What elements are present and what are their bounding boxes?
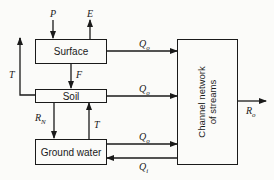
label-Qi: Qi [139, 162, 148, 176]
soil-box: Soil [35, 89, 107, 103]
groundwater-label: Ground water [41, 147, 102, 158]
surface-box: Surface [35, 39, 107, 64]
soil-label: Soil [63, 91, 80, 102]
label-E: E [87, 9, 93, 19]
channel-network-label: Channel network of streams [197, 52, 219, 152]
label-F: F [76, 70, 82, 80]
label-Qo-soil: Qo [139, 84, 150, 98]
label-Qo-surface: Qo [139, 39, 150, 53]
surface-label: Surface [54, 46, 88, 57]
label-RN: RN [35, 113, 46, 127]
label-T-left: T [9, 70, 15, 80]
label-Ro: Ro [246, 106, 256, 120]
label-Qo-groundwater: Qo [139, 132, 150, 146]
label-P: P [50, 9, 56, 19]
label-T-capillary: T [94, 120, 100, 130]
groundwater-box: Ground water [35, 139, 107, 165]
